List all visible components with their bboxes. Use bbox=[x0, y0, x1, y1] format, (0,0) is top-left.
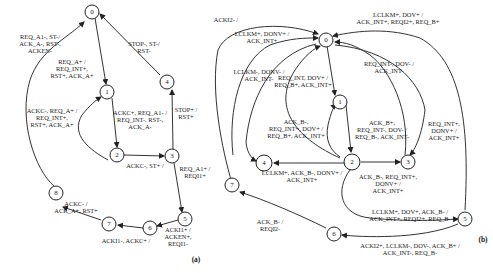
svg-text:LCLKM+, DONV+ /: LCLKM+, DONV+ / bbox=[235, 30, 290, 37]
svg-text:ACK_A+, RST+: ACK_A+, RST+ bbox=[54, 207, 98, 214]
svg-text:REQ_B+, ACK_INT+: REQ_B+, ACK_INT+ bbox=[267, 132, 325, 139]
label-a-2-3: ACKC-, ST+ / bbox=[126, 162, 164, 169]
svg-text:ACKEN-: ACKEN- bbox=[28, 47, 52, 54]
svg-text:ACK_A-: ACK_A- bbox=[128, 123, 151, 130]
label-a-1-2: ACKC+, REQ_A1- / REQ_INT-, RST-, ACK_A- bbox=[113, 109, 167, 130]
state-b-5: 5 bbox=[458, 212, 472, 226]
label-b-2-5: LCLKM+, DOV+, ACK_B- / ACK_INT+, REQI2+,… bbox=[369, 208, 450, 222]
label-b-2-4: LCLKM+, ACK_B-, DONV+ / ACK_INT+ bbox=[262, 169, 343, 183]
svg-text:2: 2 bbox=[115, 151, 119, 159]
edge-b-1-2 bbox=[346, 105, 351, 152]
edge-b-0-4 bbox=[246, 44, 316, 161]
edge-b-2-0 bbox=[286, 46, 340, 158]
svg-text:ACK_INT+: ACK_INT+ bbox=[429, 134, 460, 141]
svg-text:ACK_INT-: ACK_INT- bbox=[245, 75, 274, 82]
svg-text:DONV+ /: DONV+ / bbox=[375, 180, 401, 187]
svg-text:LCLKM+, DOV+, ACK_B- /: LCLKM+, DOV+, ACK_B- / bbox=[372, 208, 448, 215]
state-a-5: 5 bbox=[178, 212, 192, 226]
svg-text:ACKC- /: ACKC- / bbox=[64, 200, 87, 207]
caption-a: (a) bbox=[192, 255, 201, 264]
svg-text:REQI1+: REQI1+ bbox=[184, 172, 206, 179]
svg-text:REQ_INT-, DOV- /: REQ_INT-, DOV- / bbox=[364, 60, 414, 67]
edge-b-2-1 bbox=[327, 104, 340, 157]
label-b-3-0: REQ_INT-, DOV- / ACK_INT- bbox=[364, 60, 414, 74]
state-diagrams: 0 1 2 3 4 5 6 7 8 REQ_A1-, ST-/ ACK_A-, … bbox=[0, 0, 493, 273]
svg-text:6: 6 bbox=[332, 230, 336, 238]
label-b-7-0: ACKI2- / bbox=[214, 16, 239, 23]
svg-text:REQ_INT+,: REQ_INT+, bbox=[36, 114, 68, 121]
label-a-0-1: REQ_A+ / REQ_INT+, RST+, ACK_A+ bbox=[50, 58, 93, 79]
label-b-6-7: ACK_B- / REQI2- bbox=[257, 218, 284, 232]
state-b-1: 1 bbox=[333, 95, 347, 109]
edge-a-3-4 bbox=[172, 90, 173, 149]
diagram-b: 0 1 2 3 4 5 6 7 ACKI2- / LCLKM+, DONV+ /… bbox=[214, 11, 488, 256]
svg-text:0: 0 bbox=[324, 36, 328, 44]
svg-text:ACK_INT+, REQI2+, REQ_B+: ACK_INT+, REQI2+, REQ_B+ bbox=[357, 18, 440, 25]
svg-text:LCLKM+, DOV+ /: LCLKM+, DOV+ / bbox=[373, 11, 423, 18]
svg-text:4: 4 bbox=[262, 159, 266, 167]
svg-text:3: 3 bbox=[170, 152, 174, 160]
svg-text:STOP-, ST-/: STOP-, ST-/ bbox=[128, 40, 160, 47]
state-b-6: 6 bbox=[327, 227, 341, 241]
svg-text:ACK_INT-: ACK_INT- bbox=[375, 67, 404, 74]
svg-text:ACKEN+,: ACKEN+, bbox=[164, 233, 192, 240]
svg-text:5: 5 bbox=[183, 215, 187, 223]
svg-text:ACK_A-, RST-,: ACK_A-, RST-, bbox=[19, 40, 61, 47]
svg-text:RST+: RST+ bbox=[178, 113, 194, 120]
svg-text:4: 4 bbox=[165, 78, 169, 86]
svg-text:DONV+ /: DONV+ / bbox=[431, 127, 457, 134]
edge-b-5-6 bbox=[342, 224, 458, 237]
svg-text:RST+, ACK_A+: RST+, ACK_A+ bbox=[50, 72, 93, 79]
caption-b: (b) bbox=[478, 235, 488, 244]
edge-a-2-1 bbox=[78, 97, 108, 160]
svg-text:3: 3 bbox=[406, 158, 410, 166]
state-a-4: 4 bbox=[160, 75, 174, 89]
svg-text:REQI1-: REQI1- bbox=[168, 240, 188, 247]
svg-text:7: 7 bbox=[230, 181, 234, 189]
state-a-8: 8 bbox=[49, 186, 63, 200]
label-a-3-4: STOP+ / RST+ bbox=[175, 106, 198, 120]
edge-a-0-1 bbox=[95, 18, 106, 84]
svg-text:REQ_A1+ /: REQ_A1+ / bbox=[180, 165, 211, 172]
svg-text:REQ_INT+,: REQ_INT+, bbox=[56, 65, 88, 72]
svg-text:5: 5 bbox=[463, 215, 467, 223]
state-a-7: 7 bbox=[102, 217, 116, 231]
svg-text:ACKI1-, ACKC+ /: ACKI1-, ACKC+ / bbox=[102, 237, 151, 244]
state-a-1: 1 bbox=[100, 85, 114, 99]
svg-text:REQ_INT+,: REQ_INT+, bbox=[428, 120, 460, 127]
svg-text:ACK_INT+: ACK_INT+ bbox=[373, 187, 404, 194]
label-b-0-3: REQ_INT+, DONV+ / ACK_INT+ bbox=[428, 120, 460, 141]
svg-text:ACK_B-,: ACK_B-, bbox=[284, 118, 309, 125]
svg-text:8: 8 bbox=[54, 189, 58, 197]
svg-text:0: 0 bbox=[90, 8, 94, 16]
diagram-a: 0 1 2 3 4 5 6 7 8 REQ_A1-, ST-/ ACK_A-, … bbox=[19, 5, 210, 264]
svg-text:REQ_INT, DOV+ /: REQ_INT, DOV+ / bbox=[278, 74, 328, 81]
label-b-2-1: ACK_B-, REQ_INT+, DOV+ / REQ_B+, ACK_INT… bbox=[267, 118, 325, 139]
svg-text:ACK_INT-, REQ_B-: ACK_INT-, REQ_B- bbox=[383, 249, 437, 256]
svg-text:ACKI2+, LCLKM-, DOV-, ACK_B+ /: ACKI2+, LCLKM-, DOV-, ACK_B+ / bbox=[360, 242, 460, 249]
svg-text:ACKC+, REQ_A1- /: ACKC+, REQ_A1- / bbox=[113, 109, 167, 116]
label-b-5-0: LCLKM+, DOV+ / ACK_INT+, REQI2+, REQ_B+ bbox=[357, 11, 440, 25]
state-a-2: 2 bbox=[110, 148, 124, 162]
svg-text:RST+, ACK_A+: RST+, ACK_A+ bbox=[30, 121, 73, 128]
svg-text:ACK_INT+: ACK_INT+ bbox=[247, 37, 278, 44]
label-a-6-7: ACKI1-, ACKC+ / bbox=[102, 237, 151, 244]
svg-text:REQ_A1-, ST-/: REQ_A1-, ST-/ bbox=[20, 33, 60, 40]
svg-text:ACKI1+ /: ACKI1+ / bbox=[165, 226, 191, 233]
svg-text:REQI2-: REQI2- bbox=[260, 225, 280, 232]
svg-text:REQ_INT+, DOV+ /: REQ_INT+, DOV+ / bbox=[269, 125, 323, 132]
state-b-7: 7 bbox=[225, 178, 239, 192]
svg-text:6: 6 bbox=[148, 224, 152, 232]
label-b-1-2: ACK_B+, REQ_INT-, DOV- / REQ_B-, ACK_INT… bbox=[355, 119, 409, 140]
label-b-5-6: ACKI2+, LCLKM-, DOV-, ACK_B+ / ACK_INT-,… bbox=[360, 242, 460, 256]
label-a-2-1: ACKC-, REQ_A+ / REQ_INT+, RST+, ACK_A+ bbox=[27, 107, 78, 128]
svg-text:ACK_INT+: ACK_INT+ bbox=[287, 176, 318, 183]
state-a-6: 6 bbox=[143, 221, 157, 235]
svg-text:REQ_INT-, RST-,: REQ_INT-, RST-, bbox=[117, 116, 164, 123]
svg-text:ACK_INT+, REQI2+, REQ_B-: ACK_INT+, REQI2+, REQ_B- bbox=[369, 215, 450, 222]
svg-text:REQ_A+ /: REQ_A+ / bbox=[58, 58, 86, 65]
label-b-2-3: ACK_B-, REQ_INT+, DONV+ / ACK_INT+ bbox=[359, 173, 418, 194]
svg-text:ACK_B+,: ACK_B+, bbox=[369, 119, 396, 126]
svg-text:ACK_B- /: ACK_B- / bbox=[257, 218, 284, 225]
svg-text:7: 7 bbox=[107, 220, 111, 228]
